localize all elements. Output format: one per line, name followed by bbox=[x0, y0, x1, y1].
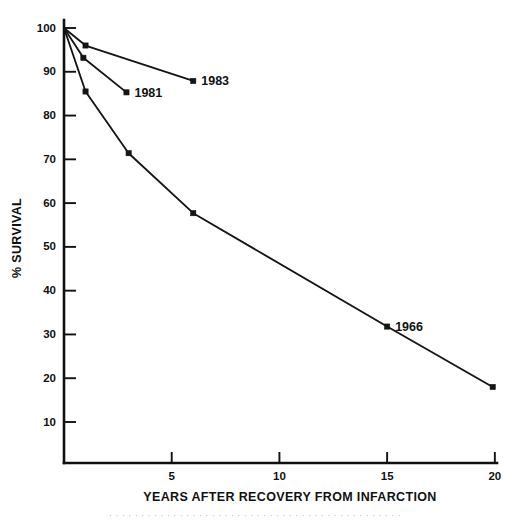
series-line-1966 bbox=[64, 28, 493, 387]
survival-chart-figure: 102030405060708090100 5101520 1966198119… bbox=[0, 0, 510, 522]
data-point-1966-3 bbox=[126, 151, 131, 156]
y-axis-title: % SURVIVAL bbox=[10, 198, 24, 278]
data-point-1983-6 bbox=[191, 78, 196, 83]
x-tick-label-20: 20 bbox=[488, 470, 501, 482]
chart-canvas: 102030405060708090100 5101520 1966198119… bbox=[0, 0, 510, 522]
series-annotation-1983: 1983 bbox=[201, 74, 229, 88]
x-tick-label-5: 5 bbox=[169, 470, 176, 482]
y-tick-label-40: 40 bbox=[43, 284, 56, 296]
cut-off-caption-text: · · · · · · · · · · · · · · · · · · · · … bbox=[0, 509, 510, 522]
y-tick-label-20: 20 bbox=[43, 372, 56, 384]
data-point-1981-0.9 bbox=[81, 55, 86, 60]
series-line-1981 bbox=[64, 28, 126, 92]
data-point-1981-2.9 bbox=[124, 90, 129, 95]
y-tick-label-30: 30 bbox=[43, 328, 56, 340]
y-tick-label-100: 100 bbox=[37, 22, 56, 34]
series-annotation-1981: 1981 bbox=[134, 86, 162, 100]
x-axis-ticks: 5101520 bbox=[169, 452, 502, 482]
data-point-1966-6 bbox=[191, 211, 196, 216]
data-point-1966-15 bbox=[385, 324, 390, 329]
x-tick-label-15: 15 bbox=[381, 470, 394, 482]
y-tick-label-60: 60 bbox=[43, 197, 56, 209]
y-tick-label-50: 50 bbox=[43, 240, 56, 252]
y-axis-ticks: 102030405060708090100 bbox=[37, 22, 76, 428]
cut-off-caption-strip: · · · · · · · · · · · · · · · · · · · · … bbox=[0, 509, 510, 522]
axis-group bbox=[64, 20, 497, 463]
series-annotation-1966: 1966 bbox=[395, 320, 423, 334]
x-tick-label-10: 10 bbox=[273, 470, 286, 482]
data-point-1983-1 bbox=[83, 43, 88, 48]
data-point-1966-19.9 bbox=[490, 384, 495, 389]
series-layer bbox=[64, 28, 495, 390]
y-tick-label-10: 10 bbox=[43, 416, 56, 428]
series-line-1983 bbox=[64, 28, 193, 81]
x-axis-title: YEARS AFTER RECOVERY FROM INFARCTION bbox=[143, 490, 436, 504]
y-tick-label-80: 80 bbox=[43, 109, 56, 121]
y-tick-label-90: 90 bbox=[43, 65, 56, 77]
series-annotations: 196619811983 bbox=[134, 74, 423, 334]
data-point-1966-1 bbox=[83, 89, 88, 94]
y-tick-label-70: 70 bbox=[43, 153, 56, 165]
